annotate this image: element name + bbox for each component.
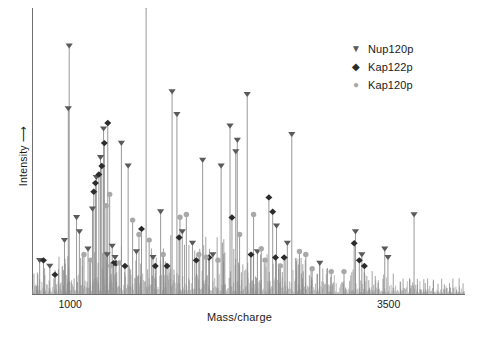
diamond-icon: ◆ xyxy=(349,62,363,72)
legend-label-kap120p: Kap120p xyxy=(368,79,413,91)
legend-item-kap120p[interactable]: ● Kap120p xyxy=(349,76,469,93)
x-axis-label: Mass/charge xyxy=(0,311,479,323)
legend-item-kap122p[interactable]: ◆ Kap122p xyxy=(349,58,469,75)
y-axis-label: Intensity ⟶ xyxy=(17,101,29,211)
legend-item-nup120p[interactable]: ▼ Nup120p xyxy=(349,40,469,57)
circle-icon: ● xyxy=(349,80,363,90)
x-axis-line xyxy=(32,294,465,295)
triangle-down-icon: ▼ xyxy=(349,44,363,54)
x-tick-label-3500: 3500 xyxy=(377,298,400,310)
mass-spectrum-figure: Intensity ⟶ Mass/charge 1000 3500 ▼ Nup1… xyxy=(0,0,479,340)
legend-label-nup120p: Nup120p xyxy=(368,43,413,55)
legend-label-kap122p: Kap122p xyxy=(368,61,413,73)
x-tick-label-1000: 1000 xyxy=(59,298,82,310)
legend: ▼ Nup120p ◆ Kap122p ● Kap120p xyxy=(349,40,469,94)
